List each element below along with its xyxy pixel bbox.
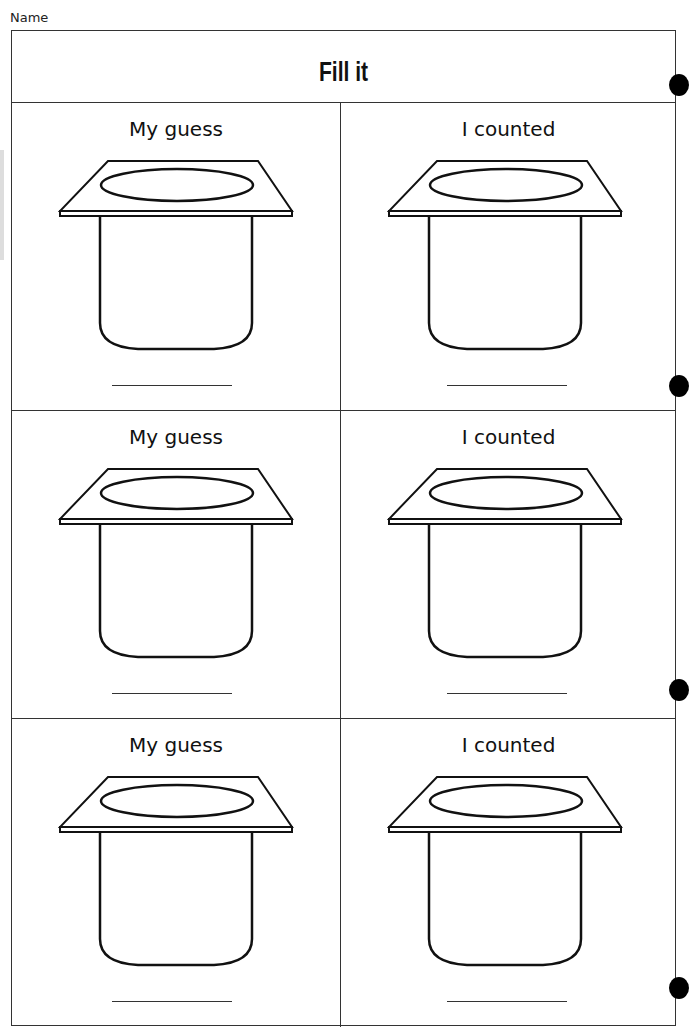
count-label: I counted — [341, 425, 676, 449]
page-edge-shadow — [0, 150, 4, 260]
count-answer-line[interactable] — [447, 693, 567, 694]
binder-hole-icon — [669, 977, 689, 999]
grid-row-1: My guess I counted — [12, 103, 675, 411]
yogurt-cup-icon — [58, 463, 294, 659]
count-label: I counted — [341, 733, 676, 757]
count-answer-line[interactable] — [447, 1001, 567, 1002]
count-cell: I counted — [341, 719, 676, 1027]
page-title: Fill it — [319, 45, 368, 88]
guess-answer-line[interactable] — [112, 385, 232, 386]
worksheet: Fill it My guess I counted — [11, 30, 676, 1026]
guess-label: My guess — [12, 733, 340, 757]
guess-cell: My guess — [12, 719, 341, 1027]
grid-row-3: My guess I counted — [12, 719, 675, 1027]
guess-count-grid: My guess I counted — [12, 103, 675, 1025]
count-answer-line[interactable] — [447, 385, 567, 386]
guess-cell: My guess — [12, 103, 341, 410]
binder-hole-icon — [669, 679, 689, 701]
yogurt-cup-icon — [58, 155, 294, 351]
name-label: Name — [10, 10, 48, 25]
binder-hole-icon — [669, 74, 689, 96]
guess-answer-line[interactable] — [112, 693, 232, 694]
guess-answer-line[interactable] — [112, 1001, 232, 1002]
count-cell: I counted — [341, 103, 676, 410]
binder-hole-icon — [669, 375, 689, 397]
count-cell: I counted — [341, 411, 676, 718]
title-row: Fill it — [12, 31, 675, 103]
yogurt-cup-icon — [58, 771, 294, 967]
yogurt-cup-icon — [387, 771, 623, 967]
count-label: I counted — [341, 117, 676, 141]
yogurt-cup-icon — [387, 463, 623, 659]
guess-cell: My guess — [12, 411, 341, 718]
guess-label: My guess — [12, 117, 340, 141]
yogurt-cup-icon — [387, 155, 623, 351]
grid-row-2: My guess I counted — [12, 411, 675, 719]
guess-label: My guess — [12, 425, 340, 449]
